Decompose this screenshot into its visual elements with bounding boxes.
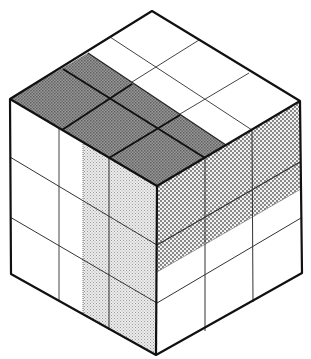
cube-diagram: Cube subdivided into a 3x3x3-style grid … <box>0 0 311 359</box>
cube-front-vertical-edge <box>156 186 157 355</box>
